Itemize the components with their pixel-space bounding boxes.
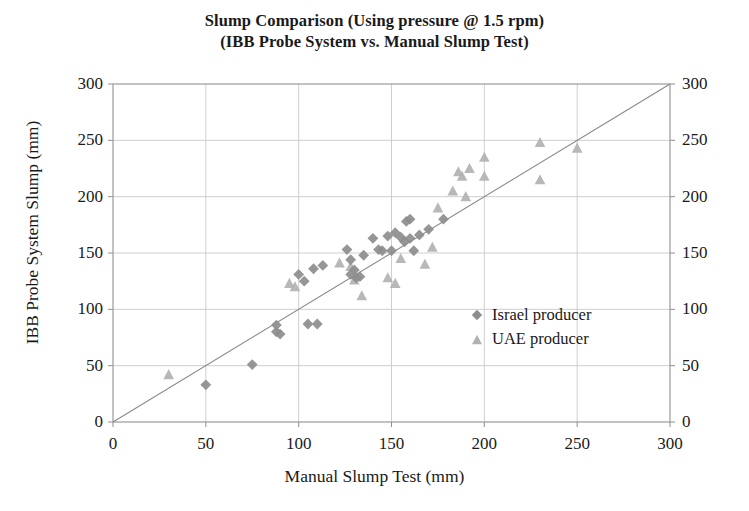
data-point-marker [163, 369, 174, 379]
data-point-marker [317, 260, 328, 271]
y-axis-tick-label-right: 300 [682, 74, 734, 94]
x-axis-tick-label: 150 [362, 434, 422, 454]
y-axis-tick-label-right: 200 [682, 187, 734, 207]
chart-title-line-1: Slump Comparison (Using pressure @ 1.5 r… [0, 10, 749, 31]
data-point-marker [345, 254, 356, 265]
legend-item: Israel producer [468, 303, 591, 327]
data-point-marker [433, 202, 444, 212]
data-point-marker [535, 137, 546, 147]
data-point-marker [479, 152, 490, 162]
legend-item: UAE producer [468, 327, 591, 351]
chart-title: Slump Comparison (Using pressure @ 1.5 r… [0, 10, 749, 52]
y-axis-tick-label-left: 250 [51, 130, 103, 150]
y-axis-tick-label-right: 250 [682, 130, 734, 150]
data-point-marker [334, 258, 345, 268]
data-point-marker [460, 191, 471, 201]
data-point-marker [308, 263, 319, 274]
chart-legend: Israel producerUAE producer [468, 303, 591, 351]
data-point-marker [447, 185, 458, 195]
x-axis-tick-label: 0 [83, 434, 143, 454]
data-point-marker [358, 250, 369, 261]
x-axis-tick-label: 250 [547, 434, 607, 454]
x-axis-tick-label: 300 [640, 434, 700, 454]
chart-title-subtitle: (IBB Probe System vs. Manual Slump Test) [0, 31, 749, 52]
data-point-marker [312, 319, 323, 330]
y-axis-tick-label-right: 100 [682, 299, 734, 319]
y-axis-tick-label-left: 0 [51, 412, 103, 432]
y-axis-tick-label-left: 200 [51, 187, 103, 207]
data-point-marker [356, 290, 367, 300]
y-axis-tick-label-right: 50 [682, 356, 734, 376]
data-point-marker [200, 379, 211, 390]
data-point-marker [479, 171, 490, 181]
data-point-marker [247, 359, 258, 370]
y-axis-title: IBB Probe System Slump (mm) [22, 73, 43, 393]
legend-item-label: UAE producer [492, 329, 589, 349]
x-axis-title: Manual Slump Test (mm) [0, 466, 749, 487]
data-point-marker [303, 319, 314, 330]
data-point-marker [408, 245, 419, 256]
y-axis-tick-label-left: 100 [51, 299, 103, 319]
legend-item-label: Israel producer [492, 305, 591, 325]
data-point-marker [427, 242, 438, 252]
data-point-marker [368, 233, 379, 244]
y-axis-tick-label-right: 0 [682, 412, 734, 432]
y-axis-tick-label-right: 150 [682, 243, 734, 263]
x-axis-tick-label: 100 [269, 434, 329, 454]
data-point-marker [438, 214, 449, 225]
y-axis-tick-label-left: 300 [51, 74, 103, 94]
chart-figure: Slump Comparison (Using pressure @ 1.5 r… [0, 0, 749, 511]
data-point-marker [464, 163, 475, 173]
diamond-marker-icon [468, 306, 486, 324]
data-point-marker [535, 174, 546, 184]
scatter-plot-svg [113, 84, 670, 422]
data-point-marker [420, 259, 431, 269]
y-axis-tick-label-left: 150 [51, 243, 103, 263]
series-israel-producer-points [200, 214, 448, 390]
x-axis-tick-label: 200 [454, 434, 514, 454]
data-point-marker [572, 143, 583, 153]
data-point-marker [395, 253, 406, 263]
y-axis-tick-label-left: 50 [51, 356, 103, 376]
x-axis-tick-label: 50 [176, 434, 236, 454]
triangle-marker-icon [468, 330, 486, 348]
plot-area [113, 84, 670, 422]
data-point-marker [386, 245, 397, 256]
